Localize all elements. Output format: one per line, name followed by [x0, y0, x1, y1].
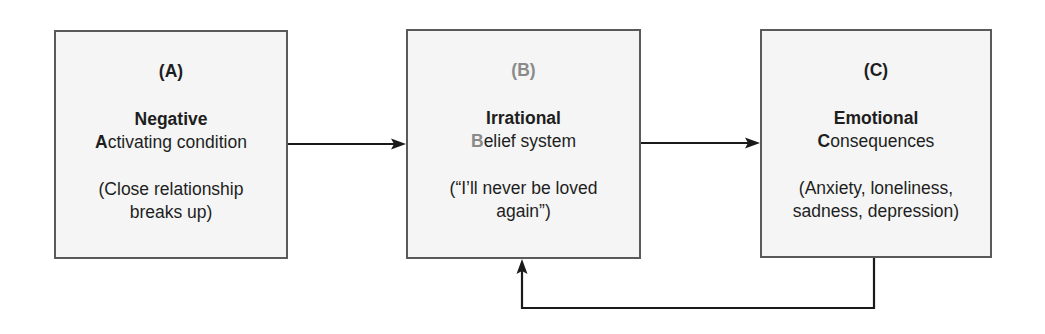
box-activating-condition: (A) Negative Activating condition (Close… [54, 30, 288, 259]
box-c-description: (Anxiety, loneliness, sadness, depressio… [762, 177, 990, 223]
box-c-desc-line-2: sadness, depression) [762, 200, 990, 223]
box-emotional-consequences: (C) Emotional Consequences (Anxiety, lon… [760, 29, 992, 258]
box-c-title: Emotional Consequences [762, 107, 990, 153]
box-b-title: Irrational Belief system [408, 107, 639, 153]
box-c-title-sub: Consequences [762, 130, 990, 153]
box-a-initial: A [95, 132, 108, 152]
box-a-desc-line-1: (Close relationship [56, 178, 286, 201]
box-b-title-rest: elief system [484, 131, 576, 151]
box-a-title-sub: Activating condition [56, 131, 286, 154]
box-b-title-sub: Belief system [408, 130, 639, 153]
arrow-a-to-b [288, 139, 406, 150]
box-c-initial: C [818, 131, 831, 151]
box-a-tag: (A) [56, 60, 286, 83]
box-b-tag: (B) [408, 59, 639, 82]
feedback-arrow-c-to-b [517, 258, 875, 308]
box-c-tag: (C) [762, 59, 990, 82]
box-c-title-bold: Emotional [762, 107, 990, 130]
box-b-desc-line-2: again”) [408, 200, 639, 223]
box-belief-system: (B) Irrational Belief system (“I’ll neve… [406, 29, 641, 259]
box-a-desc-line-2: breaks up) [56, 201, 286, 224]
arrow-b-to-c [641, 138, 760, 149]
box-c-title-rest: onsequences [830, 131, 934, 151]
box-b-initial: B [471, 131, 484, 151]
box-a-title-rest: ctivating condition [108, 132, 247, 152]
box-b-desc-line-1: (“I’ll never be loved [408, 177, 639, 200]
box-c-desc-line-1: (Anxiety, loneliness, [762, 177, 990, 200]
box-a-description: (Close relationship breaks up) [56, 178, 286, 224]
box-a-title-bold: Negative [56, 108, 286, 131]
box-b-description: (“I’ll never be loved again”) [408, 177, 639, 223]
box-a-title: Negative Activating condition [56, 108, 286, 154]
box-b-title-bold: Irrational [408, 107, 639, 130]
